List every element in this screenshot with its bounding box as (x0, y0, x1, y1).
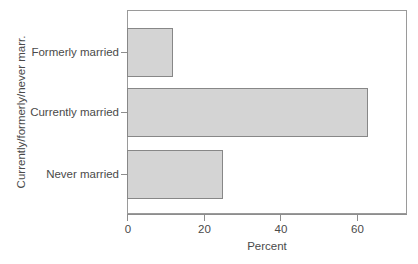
y-tick-never-married (121, 174, 127, 175)
x-tick-label-60: 60 (351, 223, 364, 235)
y-tick-formerly-married (121, 52, 127, 53)
x-axis-title: Percent (127, 240, 407, 252)
bar-chart: Formerly married Currently married Never… (0, 0, 418, 264)
x-tick-40 (280, 215, 281, 221)
y-axis-label-currently-married: Currently married (30, 106, 119, 118)
x-tick-label-0: 0 (125, 223, 131, 235)
bar-never-married (127, 150, 223, 199)
x-tick-20 (204, 215, 205, 221)
x-tick-60 (357, 215, 358, 221)
x-tick-label-40: 40 (275, 223, 288, 235)
bar-formerly-married (127, 28, 173, 77)
y-axis-label-formerly-married: Formerly married (31, 46, 119, 58)
bars-layer (127, 10, 407, 214)
y-axis-title: Currently/formerly/never marr. (14, 10, 28, 214)
y-axis-label-never-married: Never married (46, 168, 119, 180)
y-tick-currently-married (121, 112, 127, 113)
x-axis-line (127, 214, 407, 215)
bar-currently-married (127, 88, 368, 137)
x-tick-label-20: 20 (198, 223, 211, 235)
x-tick-0 (127, 215, 128, 221)
